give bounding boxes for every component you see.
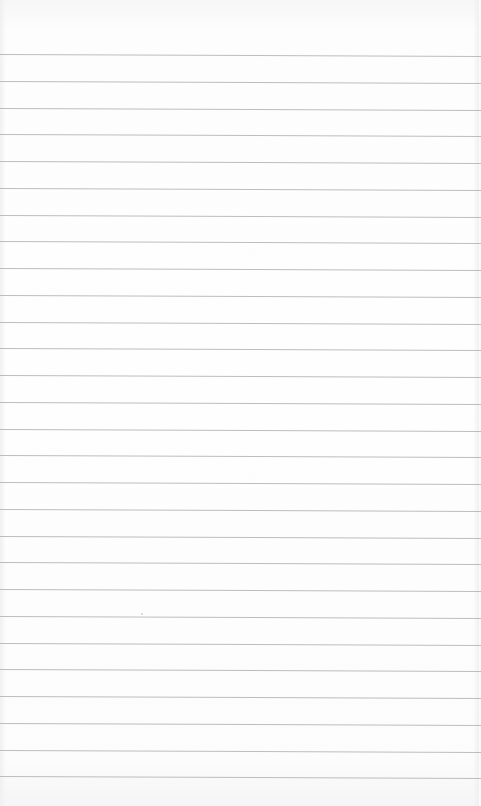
ruled-line — [0, 562, 481, 565]
ruled-line — [0, 241, 481, 244]
ruled-line — [0, 776, 481, 779]
ruled-line — [0, 161, 481, 164]
ruled-line — [0, 402, 481, 405]
ruled-line — [0, 375, 481, 378]
ruled-line — [0, 322, 481, 325]
ruled-line — [0, 188, 481, 191]
ruled-line — [0, 108, 481, 111]
ruled-line — [0, 589, 481, 592]
ruled-line — [0, 215, 481, 218]
paper-speck — [141, 613, 143, 615]
ruled-line — [0, 295, 481, 298]
ruled-line — [0, 348, 481, 351]
ruled-line — [0, 54, 481, 57]
ruled-line — [0, 509, 481, 512]
ruled-line — [0, 455, 481, 458]
ruled-line — [0, 536, 481, 539]
ruled-line — [0, 268, 481, 271]
ruled-line — [0, 429, 481, 432]
ruled-line — [0, 482, 481, 485]
ruled-line — [0, 750, 481, 753]
ruled-line — [0, 81, 481, 84]
ruled-line — [0, 643, 481, 646]
ruled-line — [0, 696, 481, 699]
ruled-line — [0, 616, 481, 619]
ruled-line — [0, 723, 481, 726]
ruled-line — [0, 134, 481, 137]
paper-right-edge-shadow — [473, 0, 479, 806]
ruled-line — [0, 669, 481, 672]
